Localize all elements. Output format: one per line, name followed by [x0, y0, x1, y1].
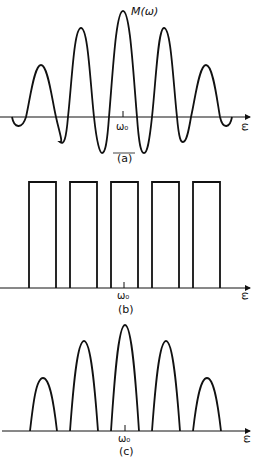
lobe-3 — [111, 325, 139, 431]
axis-label-b: ω — [240, 292, 250, 300]
figure-canvas — [0, 0, 255, 462]
center-label-b: ω₀ — [117, 291, 129, 301]
window-4 — [152, 182, 179, 288]
lobe-5 — [193, 378, 221, 431]
center-label-a: ω₀ — [116, 122, 128, 132]
panel-b — [0, 182, 250, 288]
caption-a: (a) — [117, 153, 132, 164]
curve-label-m-omega: M(ω) — [131, 6, 158, 17]
window-2 — [70, 182, 97, 288]
axis-label-a: ω — [240, 123, 250, 131]
window-3 — [111, 182, 138, 288]
lobe-2 — [70, 341, 98, 431]
caption-b: (b) — [118, 304, 134, 315]
panel-c — [2, 325, 250, 431]
lobe-1 — [30, 378, 57, 431]
caption-c: (c) — [119, 446, 134, 457]
axis-label-c: ω — [242, 435, 252, 443]
lobe-4 — [152, 341, 180, 431]
center-label-c: ω₀ — [118, 434, 130, 444]
window-5 — [193, 182, 220, 288]
window-1 — [29, 182, 56, 288]
